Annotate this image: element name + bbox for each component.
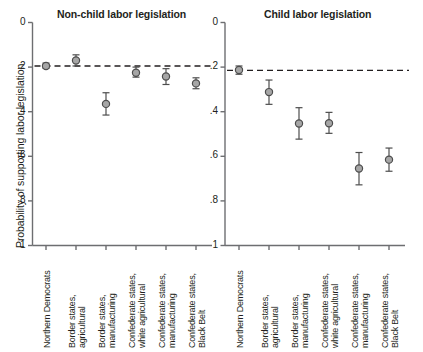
y-tick-label: 1 xyxy=(199,239,218,250)
y-tick-label: 0 xyxy=(199,16,218,27)
y-tick-label: .6 xyxy=(199,149,218,160)
x-tick-label: Confederate states,white agricultural xyxy=(127,273,147,348)
x-tick-label: Border states,manufacturing xyxy=(290,294,310,348)
x-tick-label-line: Black Belt xyxy=(197,273,207,348)
y-tick-label: .6 xyxy=(7,149,26,160)
x-tick-label: Confederate states,Black Belt xyxy=(187,273,207,348)
x-tick-label-line: white agricultural xyxy=(137,273,147,348)
x-tick-label-line: agricultural xyxy=(270,295,280,348)
x-tick-label: Confederate states,manufacturing xyxy=(350,273,370,348)
x-tick-label-line: Border states, xyxy=(290,294,300,348)
data-point-marker xyxy=(265,88,272,95)
x-tick-label-line: agricultural xyxy=(77,295,87,348)
x-tick-label-line: Border states, xyxy=(67,295,77,348)
data-point-marker xyxy=(235,66,242,73)
y-tick-label: .4 xyxy=(7,105,26,116)
data-point-marker xyxy=(42,62,49,69)
x-tick-label-line: Confederate states, xyxy=(350,273,360,348)
x-tick-label: Confederate states,manufacturing xyxy=(157,273,177,348)
data-point-marker xyxy=(72,57,79,64)
data-point-marker xyxy=(385,156,392,163)
data-point-marker xyxy=(102,100,109,107)
x-tick-label: Border states,manufacturing xyxy=(97,294,117,348)
x-tick-label-line: manufacturing xyxy=(167,273,177,348)
x-tick-label: Confederate states,Black Belt xyxy=(380,273,400,348)
x-tick-label-line: Black Belt xyxy=(390,273,400,348)
x-tick-label: Confederate states,white agricultural xyxy=(320,273,340,348)
panel-child-labor: Child labor legislation 1.8.6.4.20Northe… xyxy=(212,0,423,352)
x-tick-label-line: Confederate states, xyxy=(320,273,330,348)
x-tick-label: Northern Democrats xyxy=(42,271,52,348)
x-tick-label-line: manufacturing xyxy=(107,294,117,348)
data-point-marker xyxy=(325,120,332,127)
x-tick-label-line: Northern Democrats xyxy=(42,271,52,348)
x-tick-label-line: manufacturing xyxy=(360,273,370,348)
x-tick-label-line: Border states, xyxy=(97,294,107,348)
data-point-marker xyxy=(132,69,139,76)
y-tick-label: .8 xyxy=(199,194,218,205)
y-tick-label: 0 xyxy=(7,16,26,27)
data-point-marker xyxy=(162,73,169,80)
x-tick-label-line: manufacturing xyxy=(300,294,310,348)
data-point-marker xyxy=(192,80,199,87)
y-tick-label: .4 xyxy=(199,105,218,116)
data-point-marker xyxy=(355,165,362,172)
data-point-marker xyxy=(295,120,302,127)
x-tick-label-line: Northern Democrats xyxy=(235,271,245,348)
x-tick-label-line: white agricultural xyxy=(330,273,340,348)
x-tick-label-line: Confederate states, xyxy=(380,273,390,348)
y-tick-label: .2 xyxy=(7,60,26,71)
y-tick-label: .8 xyxy=(7,194,26,205)
x-tick-label-line: Confederate states, xyxy=(187,273,197,348)
x-tick-label-line: Confederate states, xyxy=(127,273,137,348)
x-tick-label-line: Border states, xyxy=(260,295,270,348)
x-tick-label: Border states,agricultural xyxy=(67,295,87,348)
x-tick-label-line: Confederate states, xyxy=(157,273,167,348)
panel-non-child-labor: Non-child labor legislation 1.8.6.4.20No… xyxy=(0,0,212,352)
x-tick-label: Northern Democrats xyxy=(235,271,245,348)
y-tick-label: .2 xyxy=(199,60,218,71)
y-tick-label: 1 xyxy=(7,239,26,250)
x-tick-label: Border states,agricultural xyxy=(260,295,280,348)
figure-root: Probability of supporting labor legislat… xyxy=(0,0,423,352)
